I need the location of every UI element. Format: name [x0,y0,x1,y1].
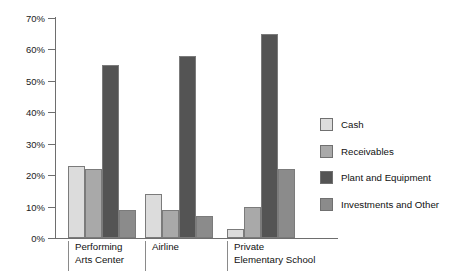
legend-item[interactable]: Cash [320,118,460,131]
bar [68,166,85,238]
chart-legend: CashReceivablesPlant and EquipmentInvest… [320,118,460,224]
bar [102,65,119,238]
y-axis-tick-label: 30% [26,138,45,149]
y-axis-tick [48,81,55,82]
bar-chart: 0%10%20%30%40%50%60%70% Performing Arts … [0,0,462,276]
legend-swatch-icon [320,145,333,158]
y-axis-tick [48,175,55,176]
legend-swatch-icon [320,171,333,184]
y-axis-tick-label: 20% [26,170,45,181]
y-axis-tick-label: 70% [26,13,45,24]
bar [261,34,278,238]
y-axis-tick-label: 0% [31,233,45,244]
bar [179,56,196,238]
bar [85,169,102,238]
legend-label: Cash [341,119,364,130]
bar [196,216,213,238]
bar [119,210,136,238]
y-axis-tick [48,207,55,208]
legend-label: Plant and Equipment [341,172,431,183]
bar [244,207,261,238]
y-axis-tick-label: 50% [26,75,45,86]
bar [145,194,162,238]
legend-item[interactable]: Investments and Other [320,198,460,211]
legend-item[interactable]: Receivables [320,145,460,158]
y-axis-tick [48,144,55,145]
x-axis-group-separator [227,241,228,271]
bar [278,169,295,238]
y-axis-tick-label: 60% [26,44,45,55]
y-axis-tick [48,238,55,239]
legend-item[interactable]: Plant and Equipment [320,171,460,184]
legend-swatch-icon [320,118,333,131]
x-axis-group-separator [68,241,69,271]
x-axis-group-separator [145,241,146,271]
bars-layer [55,18,337,238]
y-axis-tick-label: 40% [26,107,45,118]
x-axis-group-label: Private Elementary School [234,241,315,266]
x-axis-group-label: Performing Arts Center [75,241,124,266]
legend-label: Investments and Other [341,199,439,210]
x-axis-line [55,238,338,239]
x-axis-group: Airline [145,241,179,271]
x-axis-group: Performing Arts Center [68,241,124,271]
x-axis-group: Private Elementary School [227,241,315,271]
legend-swatch-icon [320,198,333,211]
x-axis-group-labels: Performing Arts CenterAirlinePrivate Ele… [55,241,345,276]
legend-label: Receivables [341,146,394,157]
y-axis-labels: 0%10%20%30%40%50%60%70% [0,0,45,276]
bar [162,210,179,238]
y-axis-tick [48,49,55,50]
y-axis-tick [48,112,55,113]
y-axis-tick-label: 10% [26,201,45,212]
bar [227,229,244,238]
y-axis-tick [48,18,55,19]
x-axis-group-label: Airline [152,241,179,254]
